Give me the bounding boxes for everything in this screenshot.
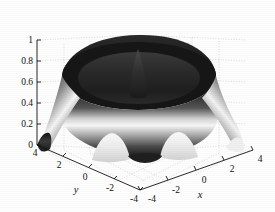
x-tick-labels: -4 -2 0 2 4 xyxy=(148,154,263,204)
z-tick-label: 0.8 xyxy=(21,56,33,66)
z-tick-labels: 1 0.8 0.6 0.4 0.2 0 xyxy=(21,35,33,150)
x-tick-label: -4 xyxy=(148,194,156,204)
x-tick-label: 2 xyxy=(230,164,235,174)
y-tick-label: -4 xyxy=(130,194,138,204)
surface-bump-right-corner xyxy=(226,137,244,152)
surface-plot-canvas: 1 0.8 0.6 0.4 0.2 0 4 2 0 -2 -4 -4 -2 0 … xyxy=(0,0,275,212)
y-tick-label: 4 xyxy=(33,148,38,158)
z-tick-label: 1 xyxy=(28,35,33,45)
x-tick-label: 4 xyxy=(258,154,263,164)
z-tick-label: 0.4 xyxy=(21,98,33,108)
x-tick-label: 0 xyxy=(202,175,207,185)
y-tick-label: 0 xyxy=(83,172,88,182)
x-axis-title: x xyxy=(197,189,203,200)
x-tick-label: -2 xyxy=(172,185,180,195)
surface-front-trough xyxy=(128,153,162,163)
z-tick-label: 0.2 xyxy=(21,119,33,129)
y-tick-label: -2 xyxy=(106,183,114,193)
y-axis-title: y xyxy=(73,184,79,195)
z-axis-ticks xyxy=(37,40,41,145)
z-tick-label: 0.6 xyxy=(21,77,33,87)
figure-3d-surface-plot: 1 0.8 0.6 0.4 0.2 0 4 2 0 -2 -4 -4 -2 0 … xyxy=(0,0,275,212)
y-tick-label: 2 xyxy=(57,160,62,170)
surface-mesh xyxy=(38,35,244,163)
